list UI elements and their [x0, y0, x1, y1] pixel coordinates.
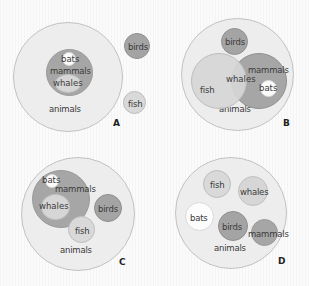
- panel-a-set-fish: fish: [123, 91, 146, 114]
- panel-d-label-bats: bats: [190, 214, 208, 223]
- panel-d-letter: D: [278, 256, 285, 266]
- panel-d: animals fish whales bats birds mammals D: [155, 143, 309, 286]
- panel-c-label-mammals: mammals: [55, 185, 96, 194]
- panel-d-label-fish: fish: [210, 181, 224, 190]
- panel-d-label-animals: animals: [214, 244, 246, 253]
- panel-c-set-birds: birds: [94, 194, 122, 222]
- panel-b: animals birds mammals fish whales bats B: [155, 0, 309, 143]
- panel-a-label-birds: birds: [128, 43, 148, 52]
- panel-c: animals mammals bats whales birds fish C: [0, 143, 154, 286]
- panel-c-letter: C: [119, 257, 126, 267]
- panel-a-label-fish: fish: [128, 100, 142, 109]
- panel-b-letter: B: [283, 118, 290, 128]
- panel-c-label-whales: whales: [39, 202, 69, 211]
- panel-a-label-animals: animals: [49, 105, 81, 114]
- panel-a-label-bats: bats: [61, 55, 79, 64]
- panel-a-label-whales: whales: [53, 79, 83, 88]
- panel-d-set-whales: whales: [238, 176, 268, 206]
- panel-b-set-birds: birds: [221, 28, 248, 55]
- panel-d-set-mammals: mammals: [251, 219, 278, 246]
- panel-b-label-bats: bats: [259, 84, 277, 93]
- panel-d-set-birds: birds: [218, 211, 248, 241]
- panel-a-letter: A: [113, 118, 120, 128]
- set-diagram-figure: animals mammals bats whales birds fish A…: [0, 0, 309, 286]
- panel-c-set-fish: fish: [68, 216, 95, 243]
- panel-c-label-fish: fish: [75, 227, 89, 236]
- panel-b-label-fish: fish: [200, 86, 214, 95]
- panel-d-label-whales: whales: [240, 188, 268, 197]
- panel-a: animals mammals bats whales birds fish A: [0, 0, 154, 143]
- panel-c-label-animals: animals: [60, 246, 92, 255]
- panel-c-label-bats: bats: [42, 176, 60, 185]
- panel-d-set-bats: bats: [185, 202, 214, 231]
- panel-d-label-birds: birds: [222, 223, 242, 232]
- panel-a-set-birds: birds: [124, 33, 150, 59]
- panel-c-label-birds: birds: [98, 205, 118, 214]
- panel-d-label-mammals: mammals: [248, 230, 289, 239]
- panel-b-label-whales: whales: [226, 75, 256, 84]
- panel-b-label-birds: birds: [225, 38, 245, 47]
- panel-d-set-fish: fish: [203, 170, 231, 198]
